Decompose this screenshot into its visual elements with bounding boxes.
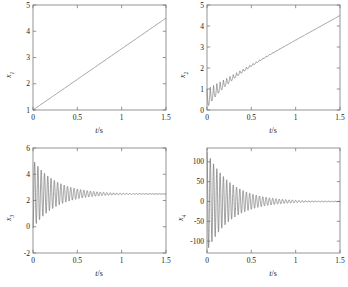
subplot-x3: x3 t/s 00.511.5-20246	[0, 143, 174, 287]
svg-text:2: 2	[26, 79, 30, 88]
svg-text:0: 0	[200, 197, 204, 206]
subplot-x1-ylabel: x1	[4, 72, 15, 78]
svg-text:6: 6	[26, 144, 30, 153]
svg-text:100: 100	[193, 157, 205, 166]
svg-text:1: 1	[120, 256, 124, 265]
svg-text:5: 5	[26, 1, 30, 10]
svg-text:1.5: 1.5	[161, 113, 171, 122]
subplot-x4-ylabel: x4	[176, 215, 187, 221]
svg-text:1.5: 1.5	[335, 256, 345, 265]
svg-text:0: 0	[31, 256, 35, 265]
subplot-x3-axes: 00.511.5-20246	[0, 143, 174, 268]
svg-text:1: 1	[200, 85, 204, 94]
svg-text:0: 0	[31, 113, 35, 122]
subplot-x4: x4 t/s 00.511.5-100-50050100	[174, 143, 348, 287]
svg-text:4: 4	[200, 22, 204, 31]
subplot-x1: x1 t/s 00.511.512345	[0, 0, 174, 143]
subplot-x4-xlabel: t/s	[207, 269, 339, 278]
svg-text:2: 2	[26, 196, 30, 205]
svg-text:2: 2	[200, 64, 204, 73]
svg-text:1: 1	[294, 113, 298, 122]
svg-text:0: 0	[205, 113, 209, 122]
subplot-x2-axes: 00.511.5012345	[174, 0, 348, 125]
svg-text:1: 1	[294, 256, 298, 265]
subplot-x1-axes: 00.511.512345	[0, 0, 174, 125]
subplot-x3-ylabel: x3	[4, 215, 15, 221]
svg-text:0.5: 0.5	[247, 256, 257, 265]
figure-four-subplots: x1 t/s 00.511.512345 x2 t/s 00.511.50123…	[0, 0, 348, 287]
subplot-x4-axes: 00.511.5-100-50050100	[174, 143, 348, 268]
subplot-x2-xlabel: t/s	[207, 126, 339, 135]
subplot-x2-ylabel: x2	[178, 72, 189, 78]
svg-text:0.5: 0.5	[247, 113, 257, 122]
svg-text:1.5: 1.5	[161, 256, 171, 265]
svg-text:50: 50	[197, 177, 205, 186]
svg-text:1: 1	[26, 106, 30, 115]
svg-text:-50: -50	[194, 217, 204, 226]
svg-text:0: 0	[205, 256, 209, 265]
svg-text:0: 0	[26, 222, 30, 231]
svg-text:3: 3	[200, 43, 204, 52]
svg-text:1.5: 1.5	[335, 113, 345, 122]
subplot-x1-xlabel: t/s	[33, 126, 165, 135]
subplot-x3-xlabel: t/s	[33, 269, 165, 278]
svg-text:0.5: 0.5	[73, 113, 83, 122]
svg-text:-2: -2	[24, 249, 30, 258]
svg-text:0.5: 0.5	[73, 256, 83, 265]
svg-text:-100: -100	[190, 237, 204, 246]
svg-text:3: 3	[26, 53, 30, 62]
svg-text:4: 4	[26, 170, 30, 179]
subplot-x2: x2 t/s 00.511.5012345	[174, 0, 348, 143]
svg-text:0: 0	[200, 106, 204, 115]
svg-text:4: 4	[26, 27, 30, 36]
svg-text:5: 5	[200, 1, 204, 10]
svg-text:1: 1	[120, 113, 124, 122]
